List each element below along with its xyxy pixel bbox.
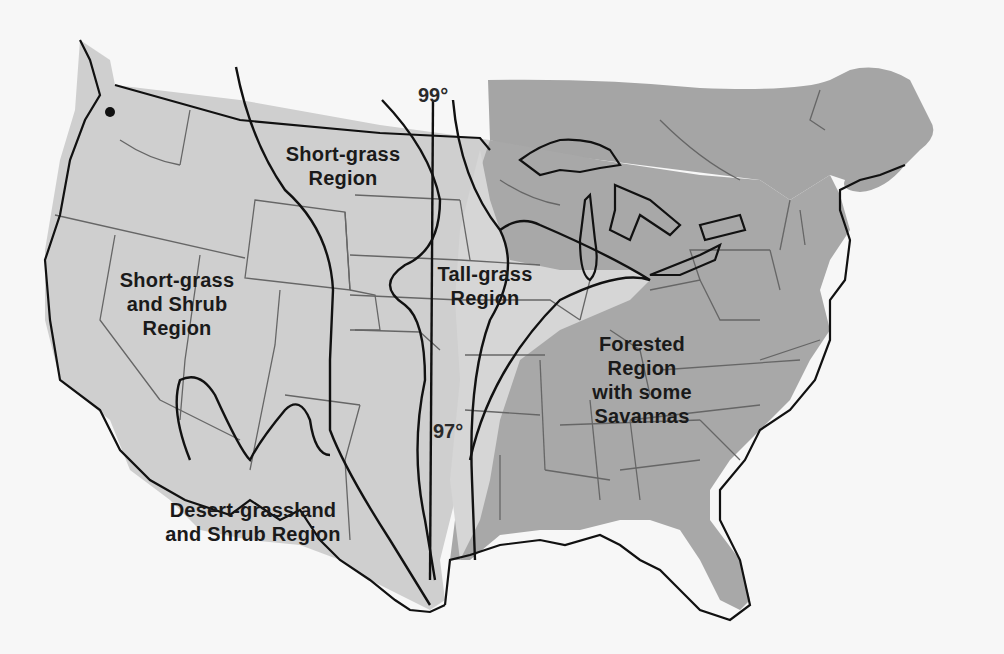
forested-region-label: Forested Region with some Savannas bbox=[562, 332, 722, 428]
short-grass-shrub-region-label: Short-grass and Shrub Region bbox=[112, 268, 242, 340]
puget-sound-mark bbox=[105, 107, 115, 117]
meridian-97-label: 97° bbox=[433, 420, 463, 443]
meridian-99-label: 99° bbox=[418, 84, 448, 107]
desert-grassland-region-label: Desert-grassland and Shrub Region bbox=[158, 498, 348, 546]
tall-grass-region-label: Tall-grass Region bbox=[430, 262, 540, 310]
short-grass-region-label: Short-grass Region bbox=[278, 142, 408, 190]
